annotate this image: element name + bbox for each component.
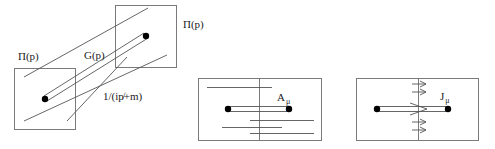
gauge-field-label: Aμ — [277, 91, 290, 106]
middle-dot-right — [286, 106, 292, 112]
right-dot-left — [374, 106, 380, 112]
diagram-canvas: Π(p) Π(p) G(p) 1/(ip̸+m) Aμ — [0, 0, 495, 149]
free-propagator-label: 1/(ip̸+m) — [103, 90, 143, 103]
dressed-propagator-upper — [44, 33, 144, 96]
current-label: Jμ — [440, 90, 450, 105]
right-diagram: Jμ — [357, 78, 479, 141]
pi-label-right: Π(p) — [183, 18, 204, 31]
propagator-label: G(p) — [84, 49, 105, 62]
middle-dot-left — [225, 106, 231, 112]
right-dot-right — [445, 106, 451, 112]
pi-label-left: Π(p) — [18, 50, 39, 63]
middle-diagram: Aμ — [199, 78, 322, 141]
left-diagram: Π(p) Π(p) G(p) 1/(ip̸+m) — [15, 6, 205, 130]
vertex-dot-left — [42, 96, 48, 102]
vertex-dot-right — [143, 33, 149, 39]
